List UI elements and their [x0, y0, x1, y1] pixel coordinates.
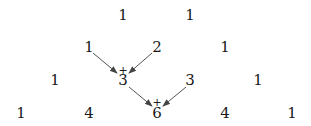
plus-sign-3: +: [118, 65, 127, 76]
plus-sign-6: +: [152, 97, 161, 108]
row1-value-0: 1: [84, 40, 94, 55]
row2-value-0: 1: [50, 73, 60, 88]
row2-value-3: 1: [253, 73, 263, 88]
arrow-icon: [93, 53, 117, 73]
pascal-triangle-diagram: 1 1 1 2 1 1 3 3 1 1 4 6 4 1 + +: [0, 0, 311, 126]
arrow-icon: [163, 87, 186, 106]
row1-value-1: 2: [152, 40, 162, 55]
row3-value-0: 1: [16, 106, 26, 121]
row1-value-2: 1: [220, 40, 230, 55]
row0-value-0: 1: [118, 8, 128, 23]
row3-value-4: 1: [287, 106, 297, 121]
row3-value-1: 4: [84, 106, 94, 121]
row2-value-2: 3: [185, 73, 195, 88]
arrow-icon: [129, 53, 152, 73]
arrow-icon: [129, 87, 152, 106]
row3-value-3: 4: [220, 106, 230, 121]
row0-value-1: 1: [185, 8, 195, 23]
